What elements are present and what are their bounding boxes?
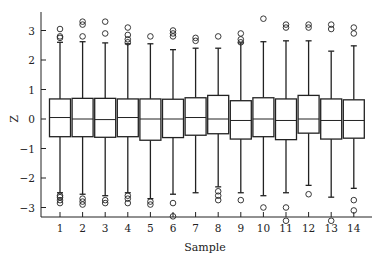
outlier-point (148, 34, 154, 40)
outlier-point (306, 191, 312, 197)
y-axis: 3210−1−2−3 (20, 12, 46, 217)
box-sample-14 (343, 25, 364, 214)
x-tick-label: 7 (192, 222, 199, 234)
box-sample-11 (276, 22, 297, 224)
x-tick-label: 10 (257, 222, 270, 234)
outlier-point (283, 205, 289, 211)
box-sample-6 (163, 28, 184, 219)
x-tick-label: 3 (102, 222, 109, 234)
box-sample-2 (72, 19, 93, 208)
outlier-point (215, 34, 221, 40)
x-tick-label: 6 (170, 222, 177, 234)
outlier-point (351, 197, 357, 203)
box-sample-13 (321, 22, 342, 224)
outlier-point (238, 31, 244, 37)
y-axis-title: Z (8, 115, 21, 123)
box-sample-7 (185, 35, 206, 193)
box-sample-12 (298, 22, 319, 197)
x-tick-label: 5 (147, 222, 154, 234)
box-sample-9 (230, 31, 251, 203)
x-axis-title: Sample (184, 241, 226, 254)
outlier-point (102, 19, 108, 25)
x-tick-label: 1 (57, 222, 64, 234)
outlier-point (102, 31, 108, 37)
x-tick-label: 14 (347, 222, 361, 234)
x-tick-label: 4 (124, 222, 131, 234)
y-tick-label: −2 (20, 172, 35, 184)
x-tick-label: 8 (215, 222, 222, 234)
outlier-point (80, 34, 86, 40)
y-tick-label: 0 (28, 113, 35, 125)
x-tick-label: 2 (79, 222, 86, 234)
box-sample-5 (140, 34, 161, 208)
box-plot-chart: 3210−1−2−3 1234567891011121314 Z Sample (0, 0, 376, 266)
box-sample-4 (117, 25, 138, 206)
outlier-point (351, 25, 357, 31)
boxes (50, 16, 365, 224)
x-tick-label: 9 (237, 222, 244, 234)
box-sample-8 (208, 34, 229, 203)
box-sample-10 (253, 16, 274, 210)
x-tick-label: 12 (302, 222, 315, 234)
y-tick-label: −3 (20, 202, 35, 214)
x-axis: 1234567891011121314 (41, 212, 372, 234)
outlier-point (170, 200, 176, 206)
y-tick-label: 3 (28, 25, 35, 37)
box-sample-1 (50, 26, 71, 206)
outlier-point (125, 25, 131, 31)
y-tick-label: 2 (28, 54, 35, 66)
outlier-point (261, 205, 267, 211)
y-tick-label: −1 (20, 143, 35, 155)
y-tick-label: 1 (28, 84, 35, 96)
outlier-point (57, 26, 63, 32)
outlier-point (261, 16, 267, 22)
outlier-point (238, 197, 244, 203)
outlier-point (351, 31, 357, 37)
box-sample-3 (95, 19, 116, 206)
